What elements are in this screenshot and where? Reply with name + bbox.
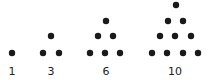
dot	[149, 50, 155, 56]
label-6: 6	[103, 65, 110, 78]
label-1: 1	[9, 65, 16, 78]
dot	[110, 33, 116, 39]
dot	[188, 33, 194, 39]
dot	[56, 50, 62, 56]
group-3	[40, 33, 62, 56]
dot	[48, 33, 54, 39]
group-6	[87, 18, 123, 56]
dot	[103, 18, 109, 24]
dot	[40, 50, 46, 56]
dot	[172, 33, 178, 39]
dot	[117, 50, 123, 56]
dot	[9, 50, 15, 56]
group-1	[9, 50, 15, 56]
dot	[173, 2, 179, 8]
dot	[164, 50, 170, 56]
dot	[165, 18, 171, 24]
dot	[157, 33, 163, 39]
label-3: 3	[48, 65, 55, 78]
dot	[102, 50, 108, 56]
dot	[87, 50, 93, 56]
label-10: 10	[168, 65, 182, 78]
dot	[95, 33, 101, 39]
dot	[195, 50, 201, 56]
dot	[180, 50, 186, 56]
group-10	[149, 2, 201, 56]
dot	[180, 18, 186, 24]
triangular-numbers-diagram: 1 3 6 10	[0, 0, 208, 80]
